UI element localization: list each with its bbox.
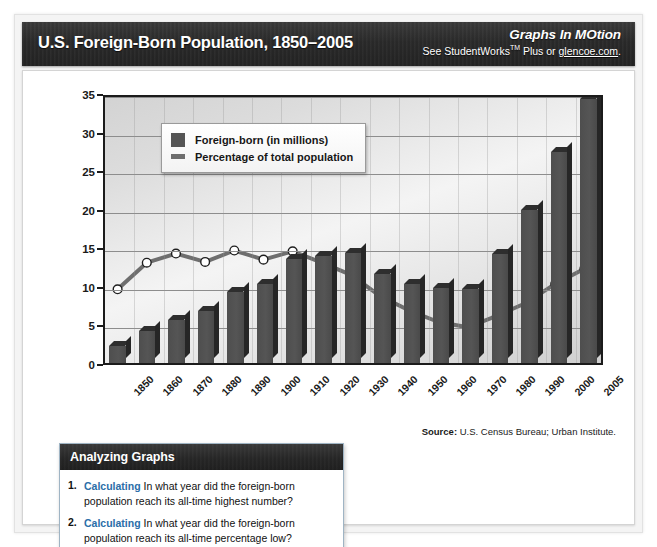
bar-1860 xyxy=(139,331,155,363)
analyzing-graphs-heading: Analyzing Graphs xyxy=(60,444,343,470)
y-axis-tick-mark xyxy=(97,364,103,366)
y-axis-tick-label: 20 xyxy=(53,205,95,217)
bar-1920 xyxy=(315,256,331,363)
x-axis-tick-label: 1950 xyxy=(425,373,450,398)
source-text: U.S. Census Bureau; Urban Institute. xyxy=(457,426,616,437)
gridline-vertical xyxy=(546,97,547,363)
chart-legend: Foreign-born (in millions) Percentage of… xyxy=(161,123,366,173)
bar-2000 xyxy=(551,152,567,363)
y-axis-tick-mark xyxy=(97,133,103,135)
bar-1900 xyxy=(257,284,273,363)
x-axis-tick-label: 1980 xyxy=(513,373,538,398)
bar-1880 xyxy=(198,311,214,363)
page-root: U.S. Foreign-Born Population, 1850–2005 … xyxy=(0,0,657,547)
x-axis-tick-label: 1920 xyxy=(336,373,361,398)
legend-bar-label: Foreign-born (in millions) xyxy=(195,134,328,146)
x-axis-tick-label: 2000 xyxy=(572,373,597,398)
bar-1950 xyxy=(404,284,420,363)
gridline-horizontal xyxy=(105,174,601,175)
analyzing-graphs-questions: 1.CalculatingIn what year did the foreig… xyxy=(60,470,343,547)
question-number: 2. xyxy=(68,516,84,545)
bar-1870 xyxy=(168,320,184,363)
question-skill-label: Calculating xyxy=(84,480,141,492)
x-axis-tick-label: 1850 xyxy=(131,373,156,398)
y-axis-tick-mark xyxy=(97,248,103,250)
x-axis-tick-label: 1910 xyxy=(307,373,332,398)
x-axis-tick-label: 1860 xyxy=(160,373,185,398)
y-axis-tick-mark xyxy=(97,94,103,96)
data-point-1880 xyxy=(201,258,210,267)
y-axis-tick-mark xyxy=(97,210,103,212)
legend-item-bar: Foreign-born (in millions) xyxy=(171,131,353,148)
gridline-vertical xyxy=(399,97,400,363)
x-axis-tick-label: 1880 xyxy=(219,373,244,398)
bar-1980 xyxy=(492,254,508,363)
y-axis-tick-label: 25 xyxy=(53,166,95,178)
source-label: Source: xyxy=(422,426,457,437)
x-axis-tick-label: 1990 xyxy=(542,373,567,398)
y-axis-tick-mark xyxy=(97,325,103,327)
gridline-vertical xyxy=(134,97,135,363)
brand-sub-mid: Plus or xyxy=(520,45,559,57)
data-point-1860 xyxy=(142,258,151,267)
x-axis-tick-label: 1960 xyxy=(454,373,479,398)
gridline-vertical xyxy=(429,97,430,363)
question-item: 1.CalculatingIn what year did the foreig… xyxy=(68,479,333,508)
y-axis-tick-mark xyxy=(97,171,103,173)
title-bar: U.S. Foreign-Born Population, 1850–2005 … xyxy=(22,22,635,66)
y-axis-tick-label: 15 xyxy=(53,243,95,255)
glencoe-link[interactable]: glencoe.com xyxy=(559,45,619,57)
y-axis-tick-mark xyxy=(97,287,103,289)
gridline-vertical xyxy=(370,97,371,363)
chart-area: 05101520253035 1850186018701880189019001… xyxy=(53,87,623,417)
question-skill-label: Calculating xyxy=(84,517,141,529)
gridline-vertical xyxy=(487,97,488,363)
gridline-horizontal xyxy=(105,97,601,98)
analyzing-graphs-box: Analyzing Graphs 1.CalculatingIn what ye… xyxy=(59,443,344,547)
bar-1910 xyxy=(286,259,302,363)
legend-bar-swatch xyxy=(171,133,185,147)
bar-1960 xyxy=(433,288,449,363)
x-axis-tick-label: 1970 xyxy=(483,373,508,398)
y-axis-tick-label: 5 xyxy=(53,320,95,332)
brand-sub-prefix: See StudentWorks xyxy=(423,45,510,57)
legend-item-line: Percentage of total population xyxy=(171,148,353,165)
bar-1990 xyxy=(521,210,537,363)
gridline-vertical xyxy=(517,97,518,363)
bar-1930 xyxy=(345,253,361,363)
y-axis-tick-label: 35 xyxy=(53,89,95,101)
x-axis-tick-label: 1870 xyxy=(189,373,214,398)
page-title: U.S. Foreign-Born Population, 1850–2005 xyxy=(38,33,353,52)
y-axis-tick-label: 0 xyxy=(53,359,95,371)
brand-subtitle: See StudentWorksTM Plus or glencoe.com. xyxy=(423,44,621,57)
brand-sub-end: . xyxy=(618,45,621,57)
gridline-vertical xyxy=(458,97,459,363)
question-text: CalculatingIn what year did the foreign-… xyxy=(84,479,333,508)
brand-logo: Graphs In MOtion xyxy=(423,27,621,42)
trademark-mark: TM xyxy=(510,44,520,51)
y-axis-tick-label: 10 xyxy=(53,282,95,294)
bar-1890 xyxy=(227,292,243,363)
bar-1970 xyxy=(462,289,478,363)
data-point-1900 xyxy=(259,255,268,264)
question-number: 1. xyxy=(68,479,84,508)
legend-line-swatch xyxy=(171,154,185,159)
brand-block: Graphs In MOtion See StudentWorksTM Plus… xyxy=(423,27,621,57)
bar-2005 xyxy=(580,99,596,363)
y-axis-tick-label: 30 xyxy=(53,128,95,140)
gridline-vertical xyxy=(576,97,577,363)
x-axis-tick-label: 1940 xyxy=(395,373,420,398)
x-axis-tick-label: 2005 xyxy=(601,373,626,398)
source-note: Source: U.S. Census Bureau; Urban Instit… xyxy=(422,426,616,437)
bar-1940 xyxy=(374,274,390,363)
x-axis-tick-label: 1900 xyxy=(278,373,303,398)
x-axis-tick-label: 1930 xyxy=(366,373,391,398)
question-item: 2.CalculatingIn what year did the foreig… xyxy=(68,516,333,545)
legend-line-label: Percentage of total population xyxy=(195,151,353,163)
bar-1850 xyxy=(109,346,125,363)
question-text: CalculatingIn what year did the foreign-… xyxy=(84,516,333,545)
content-card: 05101520253035 1850186018701880189019001… xyxy=(22,70,635,525)
x-axis-tick-label: 1890 xyxy=(248,373,273,398)
